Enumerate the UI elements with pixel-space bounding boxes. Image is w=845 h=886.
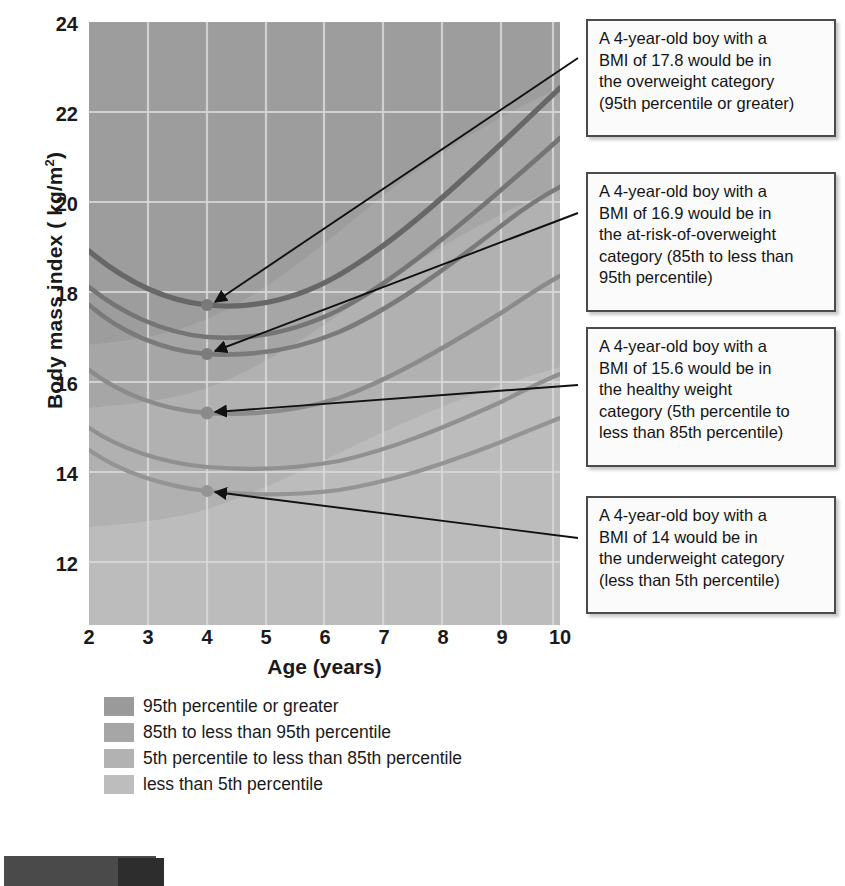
x-tick-9: 9 xyxy=(487,626,517,649)
y-tick-16: 16 xyxy=(32,374,78,394)
x-axis-label: Age (years) xyxy=(89,655,560,679)
annotation-line: A 4-year-old boy with a xyxy=(599,505,825,527)
legend-swatch-5th-to-85th xyxy=(104,749,134,768)
annotation-line: BMI of 15.6 would be in xyxy=(599,358,825,380)
annotation-line: the at-risk-of-overweight xyxy=(599,224,825,246)
y-tick-24: 24 xyxy=(32,14,78,34)
y-tick-12: 12 xyxy=(32,554,78,574)
legend-item-85th-to-95th: 85th to less than 95th percentile xyxy=(104,720,462,745)
x-tick-4: 4 xyxy=(192,626,222,649)
legend-swatch-less-than-5th xyxy=(104,775,134,794)
annotation-line: the overweight category xyxy=(599,71,825,93)
annotation-line: A 4-year-old boy with a xyxy=(599,181,825,203)
annotation-line: the underweight category xyxy=(599,548,825,570)
annotation-box-at-risk-of-overweight: A 4-year-old boy with a BMI of 16.9 woul… xyxy=(586,172,836,312)
annotation-box-healthy-weight: A 4-year-old boy with a BMI of 15.6 woul… xyxy=(586,327,836,467)
x-tick-8: 8 xyxy=(428,626,458,649)
plot-area xyxy=(89,22,560,625)
marker-dot-overweight xyxy=(201,299,213,311)
legend-label: 95th percentile or greater xyxy=(143,697,339,716)
marker-dot-underweight xyxy=(201,485,213,497)
annotation-line: 95th percentile) xyxy=(599,267,825,289)
y-tick-14: 14 xyxy=(32,464,78,484)
marker-dot-healthy-weight xyxy=(201,407,214,420)
percentile-curves-svg xyxy=(89,22,560,625)
page-footer-mark xyxy=(118,858,164,886)
legend-item-95th-or-greater: 95th percentile or greater xyxy=(104,694,462,719)
annotation-line: A 4-year-old boy with a xyxy=(599,28,825,50)
legend-swatch-95th-or-greater xyxy=(104,697,134,716)
legend-item-5th-to-85th: 5th percentile to less than 85th percent… xyxy=(104,746,462,771)
x-tick-5: 5 xyxy=(251,626,281,649)
legend-swatch-85th-to-95th xyxy=(104,723,134,742)
x-tick-2: 2 xyxy=(74,626,104,649)
x-tick-6: 6 xyxy=(310,626,340,649)
y-tick-18: 18 xyxy=(32,284,78,304)
annotation-line: the healthy weight xyxy=(599,379,825,401)
annotation-line: (95th percentile or greater) xyxy=(599,93,825,115)
x-tick-3: 3 xyxy=(133,626,163,649)
legend-label: 5th percentile to less than 85th percent… xyxy=(143,749,462,768)
x-tick-7: 7 xyxy=(369,626,399,649)
y-tick-20: 20 xyxy=(32,194,78,214)
annotation-line: category (85th to less than xyxy=(599,246,825,268)
annotation-box-underweight: A 4-year-old boy with a BMI of 14 would … xyxy=(586,496,836,614)
y-tick-22: 22 xyxy=(32,104,78,124)
annotation-line: category (5th percentile to xyxy=(599,401,825,423)
legend-item-less-than-5th: less than 5th percentile xyxy=(104,772,462,797)
x-tick-10: 10 xyxy=(545,626,575,649)
annotation-line: BMI of 16.9 would be in xyxy=(599,203,825,225)
marker-dot-at-risk-of-overweight xyxy=(201,348,213,360)
annotation-line: (less than 5th percentile) xyxy=(599,570,825,592)
annotation-box-overweight: A 4-year-old boy with a BMI of 17.8 woul… xyxy=(586,19,836,137)
legend-label: less than 5th percentile xyxy=(143,775,323,794)
annotation-line: A 4-year-old boy with a xyxy=(599,336,825,358)
annotation-line: BMI of 14 would be in xyxy=(599,527,825,549)
legend-label: 85th to less than 95th percentile xyxy=(143,723,391,742)
annotation-line: less than 85th percentile) xyxy=(599,422,825,444)
legend: 95th percentile or greater 85th to less … xyxy=(104,694,462,798)
annotation-line: BMI of 17.8 would be in xyxy=(599,50,825,72)
